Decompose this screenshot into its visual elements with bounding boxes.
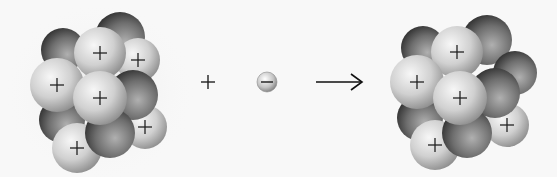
proton-icon xyxy=(73,71,127,125)
electron-icon xyxy=(257,72,277,92)
electron-capture-diagram xyxy=(0,0,557,177)
proton-icon xyxy=(433,71,487,125)
